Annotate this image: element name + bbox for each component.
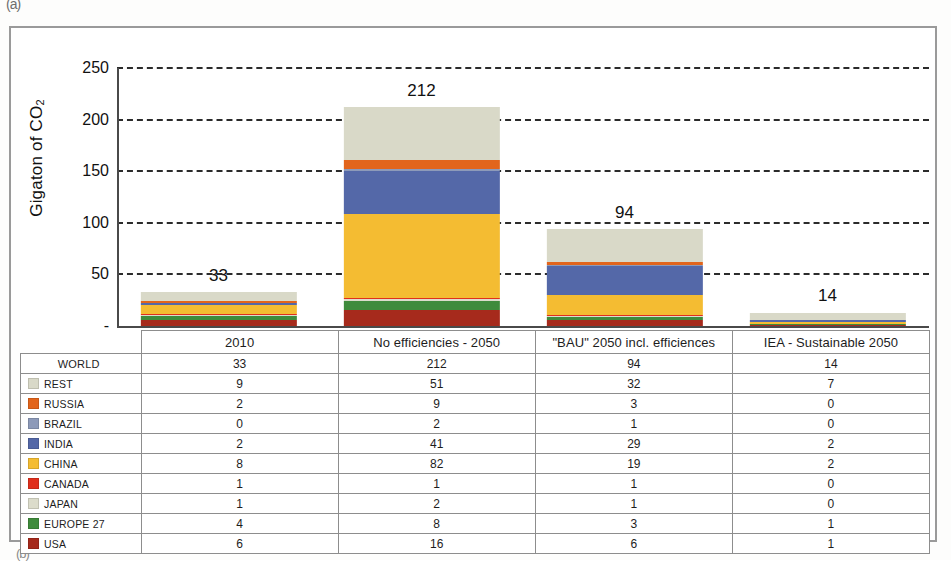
y-axis-tick-label: 150 <box>39 162 109 180</box>
table-cell-value: 1 <box>141 474 338 494</box>
legend-label: JAPAN <box>44 498 78 510</box>
table-row-label: USA <box>21 534 142 554</box>
bar-segment <box>749 313 905 320</box>
table-cell-value: 41 <box>338 434 535 454</box>
legend-label: INDIA <box>44 438 73 450</box>
table-row[interactable]: BRAZIL0210 <box>21 414 930 434</box>
chart-plot-area: Gigaton of CO2 25020015010050- 332129414 <box>11 28 939 328</box>
table-cell-value: 0 <box>732 394 929 414</box>
legend-swatch-icon <box>28 538 39 549</box>
legend-swatch-icon <box>28 398 39 409</box>
table-row-label: INDIA <box>21 434 142 454</box>
y-axis-tick-label: 250 <box>39 59 109 77</box>
table-cell-value: 94 <box>535 354 732 374</box>
table-cell-value: 2 <box>338 494 535 514</box>
table-row-label: WORLD <box>21 354 142 374</box>
table-row-label: BRAZIL <box>21 414 142 434</box>
table-cell-value: 2 <box>732 454 929 474</box>
bar-segment <box>343 107 499 160</box>
table-cell-value: 3 <box>535 394 732 414</box>
table-row[interactable]: RUSSIA2930 <box>21 394 930 414</box>
table-cell-value: 33 <box>141 354 338 374</box>
bar-segment <box>546 266 702 296</box>
x-axis-line <box>117 326 929 328</box>
table-cell-value: 0 <box>732 414 929 434</box>
chart-bar-group: 212 <box>320 28 523 326</box>
table-row[interactable]: REST951327 <box>21 374 930 394</box>
chart-bar-group: 94 <box>523 28 726 326</box>
legend-label: USA <box>44 538 66 550</box>
bar-segment <box>140 320 296 326</box>
table-row[interactable]: INDIA241292 <box>21 434 930 454</box>
bar-segment <box>140 292 296 301</box>
legend-swatch-icon <box>28 498 39 509</box>
y-axis-tick-label: 50 <box>39 265 109 283</box>
stacked-bar[interactable] <box>140 292 296 326</box>
table-cell-value: 19 <box>535 454 732 474</box>
table-cell-value: 1 <box>732 514 929 534</box>
table-cell-value: 8 <box>141 454 338 474</box>
table-row[interactable]: WORLD332129414 <box>21 354 930 374</box>
table-cell-value: 1 <box>535 414 732 434</box>
stacked-bar[interactable] <box>749 312 905 326</box>
chart-bars: 332129414 <box>117 28 929 326</box>
table-row-label: JAPAN <box>21 494 142 514</box>
legend-swatch-icon <box>28 438 39 449</box>
bar-segment <box>546 320 702 326</box>
legend-label: WORLD <box>58 358 100 370</box>
data-table-container: 2010No efficiencies - 2050"BAU" 2050 inc… <box>20 330 930 554</box>
data-table: 2010No efficiencies - 2050"BAU" 2050 inc… <box>20 330 930 554</box>
table-cell-value: 14 <box>732 354 929 374</box>
figure-label-top: (a) <box>6 0 20 12</box>
table-cell-value: 3 <box>535 514 732 534</box>
table-column-header: "BAU" 2050 incl. efficiences <box>535 331 732 354</box>
table-row-label: CANADA <box>21 474 142 494</box>
table-cell-value: 0 <box>141 414 338 434</box>
table-row[interactable]: CANADA1110 <box>21 474 930 494</box>
legend-swatch-icon <box>28 378 39 389</box>
y-axis-ticks: 25020015010050- <box>39 28 113 328</box>
y-axis-tick-label: 100 <box>39 214 109 232</box>
table-cell-value: 9 <box>141 374 338 394</box>
table-cell-value: 1 <box>141 494 338 514</box>
table-cell-value: 0 <box>732 494 929 514</box>
table-cell-value: 1 <box>535 474 732 494</box>
table-column-header: IEA - Sustainable 2050 <box>732 331 929 354</box>
y-axis-tick-label: 200 <box>39 111 109 129</box>
table-cell-value: 29 <box>535 434 732 454</box>
bar-segment <box>343 301 499 309</box>
table-cell-value: 212 <box>338 354 535 374</box>
table-cell-value: 6 <box>141 534 338 554</box>
table-column-header: No efficiencies - 2050 <box>338 331 535 354</box>
table-corner-cell <box>21 331 142 354</box>
table-row[interactable]: EUROPE 274831 <box>21 514 930 534</box>
table-row-label: RUSSIA <box>21 394 142 414</box>
table-cell-value: 9 <box>338 394 535 414</box>
stacked-bar[interactable] <box>343 107 499 326</box>
bar-segment <box>343 160 499 169</box>
chart-bar-group: 14 <box>726 28 929 326</box>
stacked-bar[interactable] <box>546 229 702 326</box>
table-row[interactable]: JAPAN1210 <box>21 494 930 514</box>
table-cell-value: 1 <box>535 494 732 514</box>
table-cell-value: 2 <box>141 394 338 414</box>
bar-total-label: 212 <box>407 81 435 101</box>
table-header-row: 2010No efficiencies - 2050"BAU" 2050 inc… <box>21 331 930 354</box>
table-cell-value: 2 <box>732 434 929 454</box>
figure-frame: Gigaton of CO2 25020015010050- 332129414… <box>9 26 937 542</box>
legend-swatch-icon <box>28 458 39 469</box>
table-row[interactable]: CHINA882192 <box>21 454 930 474</box>
legend-swatch-icon <box>28 478 39 489</box>
table-row[interactable]: USA61661 <box>21 534 930 554</box>
table-row-label: REST <box>21 374 142 394</box>
legend-label: CANADA <box>44 478 89 490</box>
table-cell-value: 51 <box>338 374 535 394</box>
table-cell-value: 2 <box>141 434 338 454</box>
table-row-label: CHINA <box>21 454 142 474</box>
bar-segment <box>140 305 296 313</box>
bar-segment <box>749 325 905 326</box>
table-cell-value: 7 <box>732 374 929 394</box>
table-cell-value: 82 <box>338 454 535 474</box>
legend-label: REST <box>44 378 73 390</box>
